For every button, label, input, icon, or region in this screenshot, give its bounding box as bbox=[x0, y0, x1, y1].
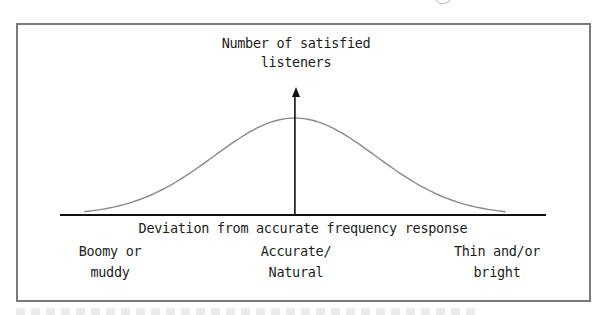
category-left-line2: muddy bbox=[90, 263, 129, 282]
y-axis-label-line2: listeners bbox=[261, 53, 331, 72]
category-right-line2: bright bbox=[474, 263, 521, 282]
category-center-line1: Accurate/ bbox=[261, 242, 331, 261]
x-axis-label: Deviation from accurate frequency respon… bbox=[139, 219, 468, 238]
category-center-line2: Natural bbox=[269, 263, 324, 282]
y-axis-arrowhead-icon bbox=[292, 87, 300, 97]
category-left-line1: Boomy or bbox=[79, 242, 142, 261]
category-right-line1: Thin and/or bbox=[454, 242, 540, 261]
y-axis-label-line1: Number of satisfied bbox=[222, 34, 371, 53]
